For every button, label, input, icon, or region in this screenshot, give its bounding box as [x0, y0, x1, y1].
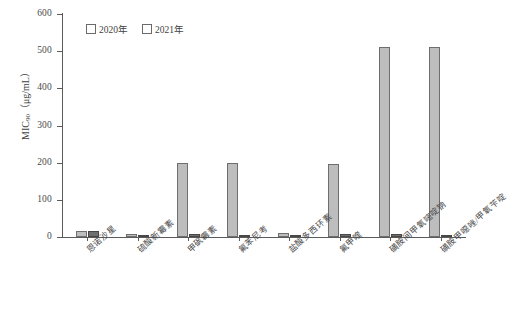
x-axis-label: 盐酸多西环素: [285, 209, 334, 254]
x-axis-label: 磺胺甲噁唑/甲氧苄啶: [437, 190, 507, 255]
x-axis-label: 硫酸新霉素: [134, 216, 176, 255]
x-axis-label: 氟甲喹: [336, 228, 364, 255]
x-axis-label: 氟苯尼考: [235, 222, 270, 255]
x-axis-label: 恩诺沙星: [83, 222, 118, 255]
x-axis-label: 甲砜霉素: [184, 222, 219, 255]
